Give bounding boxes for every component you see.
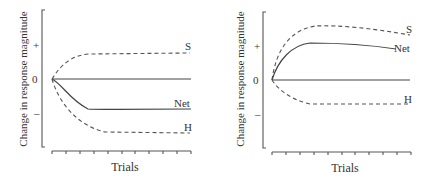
right-plus-tick: + — [254, 40, 260, 52]
left-y-axis — [42, 10, 45, 147]
right-y-axis-label: Change in response magnitude — [234, 11, 246, 146]
left-net-label: Net — [174, 97, 190, 109]
right-minus-tick: – — [254, 108, 261, 120]
right-panel: Change in response magnitude + 0 – S Net… — [234, 11, 412, 175]
right-x-axis — [272, 152, 411, 155]
right-x-axis-label: Trials — [331, 161, 359, 175]
left-panel: Change in response magnitude + 0 – S Net… — [17, 10, 192, 174]
left-y-axis-label: Change in response magnitude — [17, 11, 29, 146]
right-h-label: H — [404, 93, 412, 105]
right-y-axis — [263, 12, 266, 148]
left-x-axis-label: Trials — [111, 160, 139, 174]
right-s-curve — [272, 26, 410, 80]
right-h-curve — [272, 80, 410, 104]
left-plus-tick: + — [33, 39, 39, 51]
right-net-curve — [272, 43, 396, 80]
right-net-label: Net — [394, 42, 410, 54]
left-s-label: S — [185, 40, 191, 52]
left-minus-tick: – — [33, 107, 40, 119]
left-h-curve — [52, 79, 190, 133]
left-x-axis — [52, 151, 191, 154]
right-s-label: S — [406, 23, 412, 35]
left-net-curve — [52, 79, 191, 109]
right-zero-tick: 0 — [253, 74, 259, 86]
habituation-sensitization-diagram: Change in response magnitude + 0 – S Net… — [0, 0, 429, 182]
left-s-curve — [52, 53, 190, 79]
left-zero-tick: 0 — [32, 73, 38, 85]
left-h-label: H — [184, 121, 192, 133]
